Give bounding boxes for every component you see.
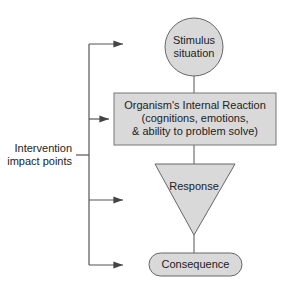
stimulus-line-1: Stimulus [165, 34, 223, 47]
internal-line-2: (cognitions, emotions, [114, 112, 276, 125]
consequence-line-1: Consequence [149, 258, 242, 271]
stimulus-label: Stimulus situation [165, 34, 223, 60]
intervention-line-2: impact points [2, 155, 72, 168]
consequence-label: Consequence [149, 258, 242, 271]
internal-line-1: Organism's Internal Reaction [114, 99, 276, 112]
internal-line-3: & ability to problem solve) [114, 125, 276, 138]
intervention-line-1: Intervention [2, 142, 72, 155]
stimulus-line-2: situation [165, 47, 223, 60]
response-label: Response [160, 180, 228, 193]
intervention-label: Intervention impact points [2, 142, 72, 168]
internal-reaction-label: Organism's Internal Reaction (cognitions… [114, 99, 276, 138]
response-node [155, 164, 235, 235]
response-line-1: Response [160, 180, 228, 193]
